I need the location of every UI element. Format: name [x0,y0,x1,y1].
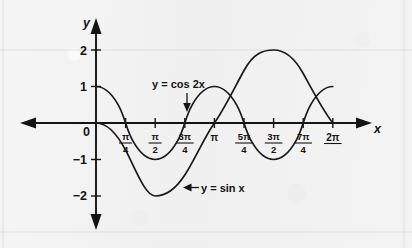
y-axis-arrow-up [91,18,102,34]
x-axis-arrow-right [356,118,372,129]
x-tick-label-pi: π [211,132,219,143]
svg-text:3π: 3π [267,131,280,142]
svg-text:π: π [152,131,160,142]
svg-text:2: 2 [153,144,158,155]
x-axis-arrow-left [20,118,36,129]
x-axis-label: x [373,122,382,136]
x-tick-label-7pi-over-4: 7π 4 [294,131,312,155]
svg-text:2π: 2π [326,132,340,143]
y-tick-label-2: 2 [80,44,87,58]
svg-text:4: 4 [241,144,247,155]
x-tick-label-3pi-over-4: 3π 4 [176,131,194,155]
svg-text:4: 4 [182,144,188,155]
sin-curve-label: y = sin x [201,182,246,194]
svg-text:2: 2 [271,144,276,155]
origin-label: 0 [83,125,90,139]
annotation-sin-x: y = sin x [183,182,246,194]
x-tick-label-pi-over-2: π 2 [149,131,162,155]
y-axis-label: y [82,16,91,30]
svg-text:π: π [211,132,219,143]
y-tick-label-neg2: −2 [73,189,87,203]
x-tick-label-5pi-over-4: 5π 4 [235,131,253,155]
graph-canvas: x y 2 1 0 −1 −2 π 4 [0,0,412,248]
y-tick-label-neg1: −1 [73,153,87,167]
x-axis [20,118,372,129]
trig-graph-figure: x y 2 1 0 −1 −2 π 4 [0,0,412,248]
y-tick-label-1: 1 [80,80,87,94]
y-axis-arrow-down [91,214,102,230]
cos-curve-label: y = cos 2x [152,78,206,90]
x-tick-label-3pi-over-2: 3π 2 [265,131,283,155]
x-tick-label-2pi: 2π [324,132,342,144]
arrow-left-icon [183,184,192,192]
svg-text:4: 4 [301,144,307,155]
annotation-cos-2x: y = cos 2x [152,78,206,112]
